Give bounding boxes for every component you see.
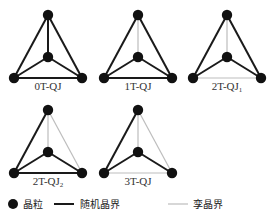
grain-node-icon: [43, 147, 53, 157]
grain-node-icon: [9, 168, 19, 178]
diagram-1: 0T-QJ: [9, 10, 87, 92]
diagram-2: 1T-QJ: [99, 10, 177, 92]
grain-node-icon: [167, 168, 177, 178]
grain-node-icon: [43, 10, 53, 20]
diagram-label: 2T-QJ2: [33, 175, 64, 189]
grain-node-icon: [167, 73, 177, 83]
diagram-4: 2T-QJ2: [9, 105, 87, 189]
diagram-label: 1T-QJ: [124, 80, 152, 92]
diagram-5: 3T-QJ: [99, 105, 177, 187]
grain-node-icon: [256, 73, 266, 83]
grain-node-icon: [222, 52, 232, 62]
grain-node-icon: [77, 168, 87, 178]
grain-legend-icon: [8, 199, 18, 209]
grain-node-icon: [133, 105, 143, 115]
grain-node-icon: [222, 10, 232, 20]
grain-node-icon: [188, 73, 198, 83]
legend-random-boundary-label: 随机晶界: [80, 198, 120, 210]
grain-node-icon: [43, 105, 53, 115]
diagram-label: 0T-QJ: [34, 80, 62, 92]
diagram-label: 3T-QJ: [124, 175, 152, 187]
triple-junction-diagrams: 0T-QJ1T-QJ2T-QJ12T-QJ23T-QJ 晶粒 随机晶界 孪晶界: [0, 0, 273, 217]
grain-node-icon: [99, 168, 109, 178]
grain-node-icon: [133, 52, 143, 62]
grain-node-icon: [133, 10, 143, 20]
grain-node-icon: [133, 147, 143, 157]
legend-grain-label: 晶粒: [23, 198, 43, 210]
grain-node-icon: [9, 73, 19, 83]
diagram-3: 2T-QJ1: [188, 10, 266, 94]
diagram-label: 2T-QJ1: [212, 80, 243, 94]
legend: 晶粒 随机晶界 孪晶界: [8, 198, 223, 210]
grain-node-icon: [77, 73, 87, 83]
legend-twin-boundary-label: 孪晶界: [193, 198, 223, 210]
grain-node-icon: [43, 52, 53, 62]
grain-node-icon: [99, 73, 109, 83]
